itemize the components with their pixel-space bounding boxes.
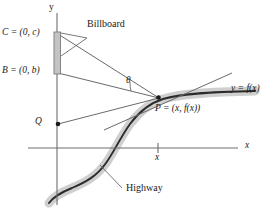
segment-b-to-p	[58, 73, 159, 98]
label-point-c: C = (0, c)	[2, 28, 40, 38]
label-billboard: Billboard	[87, 19, 125, 29]
y-axis-label: y	[49, 3, 54, 13]
billboard-leader-top	[61, 38, 87, 56]
billboard-leader-bottom	[61, 33, 87, 38]
x-axis-label: x	[245, 141, 249, 151]
x-tick-label: x	[155, 153, 159, 163]
y-axis-label-text: y	[49, 2, 54, 12]
x-tick-label-text: x	[155, 152, 159, 162]
label-highway: Highway	[126, 183, 163, 193]
tangent-line-at-p	[104, 73, 232, 130]
label-point-p: P = (x, f(x))	[155, 104, 200, 114]
segment-c-to-p	[58, 34, 159, 98]
label-curve-function: y = f(x)	[231, 84, 260, 94]
point-marker-p	[156, 95, 161, 100]
highway-leader	[100, 165, 122, 188]
billboard-rect	[54, 32, 61, 74]
figure-billboard-viewing-angle: y x x C = (0, c) B = (0, b) Q P = (x, f(…	[0, 0, 264, 209]
label-point-q: Q	[35, 117, 42, 127]
label-point-b: B = (0, b)	[2, 66, 40, 76]
x-axis-label-text: x	[245, 140, 249, 150]
label-angle-theta: θ	[126, 76, 131, 86]
point-marker-q	[56, 122, 61, 127]
